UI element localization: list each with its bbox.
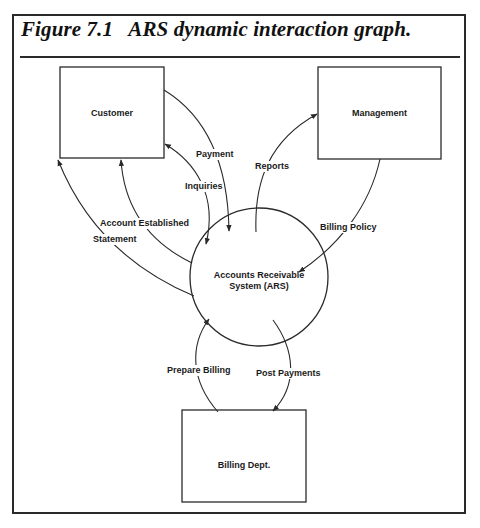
edge-account-established xyxy=(121,160,192,263)
interaction-graph xyxy=(0,0,480,528)
ars-label-line1: Accounts Receivable xyxy=(190,270,328,281)
edge-payment xyxy=(164,90,229,231)
customer-label: Customer xyxy=(60,108,164,119)
management-label: Management xyxy=(318,108,441,119)
billing-dept-label: Billing Dept. xyxy=(182,460,306,471)
reports-label: Reports xyxy=(255,161,289,172)
statement-label: Statement xyxy=(93,234,137,245)
post-payments-label: Post Payments xyxy=(256,368,321,379)
prepare-billing-label: Prepare Billing xyxy=(167,365,231,376)
billing-dept-node xyxy=(182,410,306,502)
account-established-label: Account Established xyxy=(100,218,189,229)
billing-policy-label: Billing Policy xyxy=(320,222,377,233)
ars-label-line2: System (ARS) xyxy=(190,281,328,292)
inquiries-label: Inquiries xyxy=(185,181,223,192)
payment-label: Payment xyxy=(196,149,234,160)
